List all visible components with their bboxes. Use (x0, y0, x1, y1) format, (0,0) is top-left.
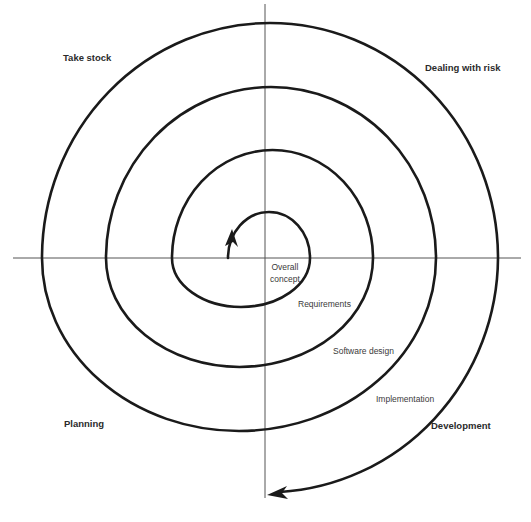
spiral-diagram (0, 0, 531, 522)
phase-label-requirements: Requirements (298, 298, 351, 310)
phase-label-software-design: Software design (333, 345, 394, 357)
quadrant-label-take-stock: Take stock (63, 52, 111, 63)
phase-label-overall-concept: Overall concept (270, 261, 300, 285)
quadrant-label-dealing-with-risk: Dealing with risk (425, 62, 501, 73)
phase-label-implementation: Implementation (376, 393, 434, 405)
quadrant-label-planning: Planning (64, 418, 104, 429)
quadrant-label-development: Development (431, 420, 491, 431)
phase-label-line: Overall (270, 261, 300, 273)
phase-label-line: concept (270, 273, 300, 285)
